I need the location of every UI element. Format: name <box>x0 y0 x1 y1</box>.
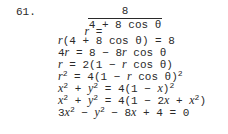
fraction: 8 4 + 8 cos θ <box>88 6 162 31</box>
equation-line-8: 3x2 − y2 − 8x + 4 = 0 <box>58 107 189 119</box>
problem-number: 61. <box>16 6 36 18</box>
equation-line-3: 4r = 8 − 8r cos θ <box>58 47 166 59</box>
equation-line-2: r(4 + 8 cos θ) = 8 <box>58 35 175 47</box>
fraction-numerator: 8 <box>88 6 162 17</box>
equation-line-5: r2 = 4(1 − r cos θ)2 <box>58 71 183 83</box>
equation-line-4: r = 2(1 − r cos θ) <box>58 59 173 71</box>
equation-line-6: x2 + y2 = 4(1 − x)2 <box>58 83 174 95</box>
fraction-denominator: 4 + 8 cos θ <box>88 20 162 31</box>
